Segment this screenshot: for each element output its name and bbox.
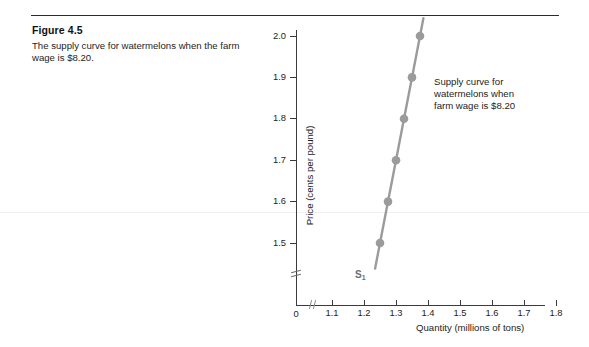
annotation-line-2: watermelons when	[434, 88, 554, 100]
data-point	[400, 115, 409, 124]
data-point	[408, 73, 417, 82]
data-point	[416, 32, 425, 41]
supply-curve-annotation: Supply curve for watermelons when farm w…	[434, 76, 554, 113]
supply-curve-chart: 1.51.61.71.81.92.0 1.11.21.31.41.51.61.7…	[0, 0, 589, 347]
data-point	[376, 239, 385, 248]
curve-layer	[0, 0, 589, 347]
data-point	[384, 197, 393, 206]
curve-label-s1: S1	[355, 269, 366, 280]
annotation-line-3: farm wage is $8.20	[434, 100, 554, 112]
curve-label-text: S	[355, 269, 362, 280]
annotation-line-1: Supply curve for	[434, 76, 554, 88]
data-point	[392, 156, 401, 165]
supply-curve-line	[375, 18, 423, 268]
curve-label-subscript: 1	[362, 274, 366, 281]
figure-page: Figure 4.5 The supply curve for watermel…	[0, 0, 589, 347]
supply-curve-s1	[375, 18, 424, 268]
